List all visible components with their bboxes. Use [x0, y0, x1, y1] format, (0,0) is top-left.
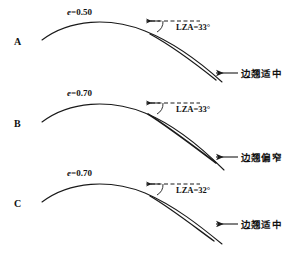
panel-b-annotation-label: 边翘偏窄: [241, 150, 282, 164]
panel-a-annotation-label: 边翘适中: [241, 66, 282, 80]
panel-letter-b: B: [14, 118, 21, 129]
panel-b-eccentricity-label: e=0.70: [67, 88, 92, 98]
panel-c-eccentricity-label: e=0.70: [67, 168, 92, 178]
panel-letter-c: C: [14, 198, 21, 209]
panel-b-e-value: =0.70: [71, 88, 92, 98]
panel-a-angle-arc: [157, 21, 163, 32]
panel-c-inner-rim-line: [150, 196, 214, 241]
diagram-canvas: [0, 0, 283, 254]
panel-b-lza-label: LZA=33°: [176, 104, 210, 114]
panel-a-eccentricity-label: e=0.50: [67, 7, 92, 17]
panel-letter-a: A: [14, 36, 21, 47]
panel-c-e-value: =0.70: [71, 168, 92, 178]
panel-c-annotation-label: 边翘适中: [241, 217, 282, 231]
panel-c-lza-label: LZA=32°: [176, 185, 210, 195]
panel-a-inner-rim-line: [150, 34, 216, 80]
panel-b-angle-arc: [157, 103, 163, 114]
panel-c-angle-arc: [157, 184, 163, 195]
panel-a-lza-label: LZA=33°: [176, 22, 210, 32]
panel-b-inner-rim-line: [148, 114, 216, 163]
panel-a-e-value: =0.50: [71, 7, 92, 17]
figure-container: A e=0.50 LZA=33° 边翘适中 B e=0.70 LZA=33° 边…: [0, 0, 283, 254]
